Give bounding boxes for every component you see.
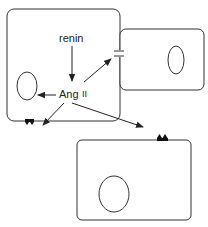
ang-label: Ang [59, 89, 79, 100]
paracrine-receptor-icon [157, 134, 168, 141]
renin-label: renin [59, 33, 83, 44]
distant-cell [77, 140, 191, 220]
distant-cell-nucleus [99, 176, 129, 212]
autocrine-receptor-icon [25, 119, 34, 125]
paracrine-arrow [72, 103, 143, 127]
ang-numeral-label: II [82, 90, 87, 99]
gap-junction-icon [114, 50, 124, 57]
adjacent-cell [120, 29, 204, 90]
source-cell-nucleus [17, 72, 37, 100]
signaling-diagram [0, 0, 208, 227]
juxtacrine-arrow [84, 59, 111, 82]
autocrine-arrow [43, 103, 64, 125]
